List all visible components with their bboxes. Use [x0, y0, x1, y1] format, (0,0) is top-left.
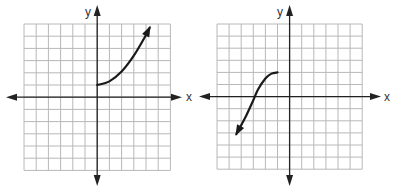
x-axis-label: x [384, 90, 390, 104]
curve-line [97, 26, 150, 85]
axes [199, 5, 381, 186]
graph-right: y x [193, 0, 391, 194]
curve-arrow-icon [235, 124, 244, 136]
y-axis-label: y [277, 5, 283, 19]
axes [6, 5, 182, 186]
y-axis-label: y [85, 5, 91, 19]
graph-left: y x [0, 0, 198, 194]
graph-right-plot: y x [193, 0, 397, 194]
graph-left-plot: y x [0, 0, 198, 194]
x-axis-label: x [186, 90, 192, 104]
curve-line [235, 72, 277, 135]
